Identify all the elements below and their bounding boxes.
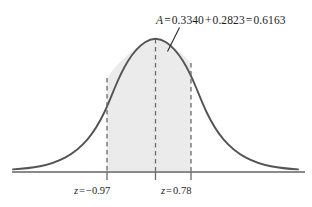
distribution-plot [0, 0, 312, 207]
area-equals-sign-first: = [163, 14, 172, 26]
area-term-first: 0.3340 [172, 14, 204, 26]
shaded-area-region [107, 40, 191, 172]
z-value-lower: −0.97 [86, 185, 110, 196]
area-term-second: 0.2823 [213, 14, 245, 26]
area-annotation-text: A=0.3340+0.2823=0.6163 [156, 14, 286, 26]
area-plus-sign: + [204, 14, 213, 26]
z-value-upper: 0.78 [173, 185, 191, 196]
area-result-value: 0.6163 [253, 14, 285, 26]
z-equals-sign-upper: = [165, 185, 173, 196]
tick-label-z-lower: z=−0.97 [74, 185, 110, 196]
z-equals-sign-lower: = [78, 185, 86, 196]
normal-distribution-figure: A=0.3340+0.2823=0.6163 z=−0.97 z=0.78 [0, 0, 312, 207]
tick-label-z-upper: z=0.78 [161, 185, 191, 196]
